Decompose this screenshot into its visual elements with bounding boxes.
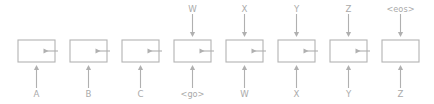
input-arrow-5	[294, 65, 299, 88]
input-token-label-2: C	[137, 89, 143, 99]
rnn-cell-7: Z<eos>	[382, 4, 419, 99]
input-token-label-1: B	[86, 89, 92, 99]
output-arrow-4	[242, 14, 247, 37]
input-arrow-3	[190, 65, 195, 88]
rnn-cell-6: YZ	[330, 4, 370, 99]
input-token-label-4: W	[240, 89, 249, 99]
output-token-label-4: X	[242, 4, 248, 14]
output-arrow-6	[346, 14, 351, 37]
input-arrow-6	[346, 65, 351, 88]
output-token-label-5: Y	[293, 4, 300, 14]
input-token-label-0: A	[34, 89, 40, 99]
output-token-label-6: Z	[346, 4, 352, 14]
output-token-label-3: W	[188, 4, 197, 14]
input-token-label-5: X	[294, 89, 300, 99]
rnn-cell-2: C	[122, 40, 162, 99]
output-arrow-3	[190, 14, 195, 37]
input-arrow-7	[398, 65, 403, 88]
output-arrow-7	[398, 14, 403, 37]
rnn-cell-1: B	[70, 40, 110, 99]
rnn-cell-0: A	[18, 40, 58, 99]
rnn-cell-5: XY	[278, 4, 318, 99]
input-arrow-1	[86, 65, 91, 88]
input-token-label-3: <go>	[181, 89, 205, 99]
input-arrow-2	[138, 65, 143, 88]
rnn-cell-3: <go>W	[174, 4, 214, 99]
output-token-label-7: <eos>	[386, 4, 414, 14]
diagram-canvas: ABC<go>WWXXYYZZ<eos>	[0, 0, 434, 104]
seq2seq-diagram: ABC<go>WWXXYYZZ<eos>	[0, 0, 434, 104]
rnn-cell-box	[382, 40, 419, 62]
input-token-label-6: Y	[345, 89, 352, 99]
input-arrow-0	[34, 65, 39, 88]
input-arrow-4	[242, 65, 247, 88]
output-arrow-5	[294, 14, 299, 37]
rnn-cell-4: WX	[226, 4, 266, 99]
input-token-label-7: Z	[398, 89, 404, 99]
